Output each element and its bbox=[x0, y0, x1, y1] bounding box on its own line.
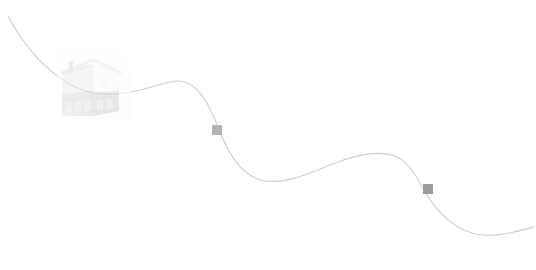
timeline-marker-1[interactable] bbox=[212, 125, 222, 135]
timeline-marker-2[interactable] bbox=[423, 184, 433, 194]
timeline-marker-layer bbox=[0, 0, 536, 270]
timeline-canvas bbox=[0, 0, 536, 270]
